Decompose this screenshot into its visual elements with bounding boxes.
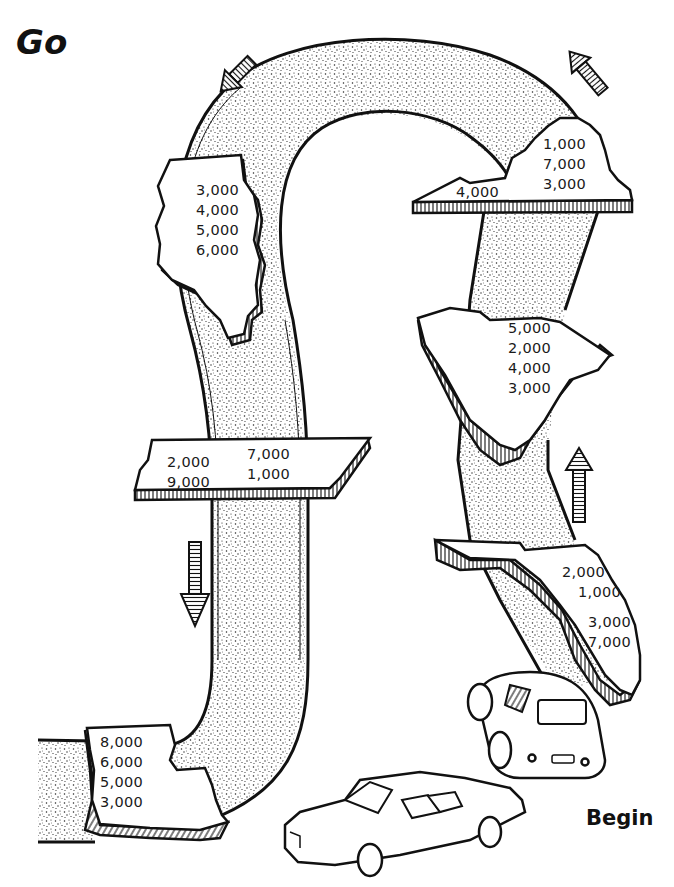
florida-values-top: 2,000 <box>562 562 605 582</box>
value: 4,000 <box>196 200 239 220</box>
value: 2,000 <box>167 452 210 472</box>
go-label: Go <box>16 22 67 62</box>
value: 7,000 <box>247 444 290 464</box>
arrow-up-right <box>566 448 592 522</box>
compact-car <box>468 672 605 778</box>
south-carolina-values: 5,000 2,000 4,000 3,000 <box>508 318 551 398</box>
value: 6,000 <box>196 240 239 260</box>
value: 3,000 <box>100 792 143 812</box>
value: 3,000 <box>508 378 551 398</box>
begin-label: Begin <box>586 806 653 830</box>
florida-values-2: 1,000 <box>578 582 621 602</box>
virginia-extra-value: 4,000 <box>456 182 499 202</box>
florida-values-3: 3,000 7,000 <box>588 612 631 652</box>
value: 5,000 <box>100 772 143 792</box>
value: 5,000 <box>196 220 239 240</box>
value: 1,000 <box>543 134 586 154</box>
value: 1,000 <box>247 464 290 484</box>
arrow-down-middle <box>181 542 209 626</box>
illinois-values: 3,000 4,000 5,000 6,000 <box>196 180 239 260</box>
value: 3,000 <box>196 180 239 200</box>
value: 9,000 <box>167 472 210 492</box>
value: 7,000 <box>588 632 631 652</box>
value: 1,000 <box>578 582 621 602</box>
virginia-values: 1,000 7,000 3,000 <box>543 134 586 194</box>
louisiana-values: 8,000 6,000 5,000 3,000 <box>100 732 143 812</box>
value: 8,000 <box>100 732 143 752</box>
value: 3,000 <box>588 612 631 632</box>
value: 2,000 <box>508 338 551 358</box>
arrow-up-left-top <box>560 44 612 99</box>
tennessee-left-values: 2,000 9,000 <box>167 452 210 492</box>
sedan-car <box>285 772 525 876</box>
value: 3,000 <box>543 174 586 194</box>
value: 4,000 <box>508 358 551 378</box>
value: 5,000 <box>508 318 551 338</box>
value: 4,000 <box>456 182 499 202</box>
value: 7,000 <box>543 154 586 174</box>
value: 2,000 <box>562 562 605 582</box>
tennessee-right-values: 7,000 1,000 <box>247 444 290 484</box>
value: 6,000 <box>100 752 143 772</box>
